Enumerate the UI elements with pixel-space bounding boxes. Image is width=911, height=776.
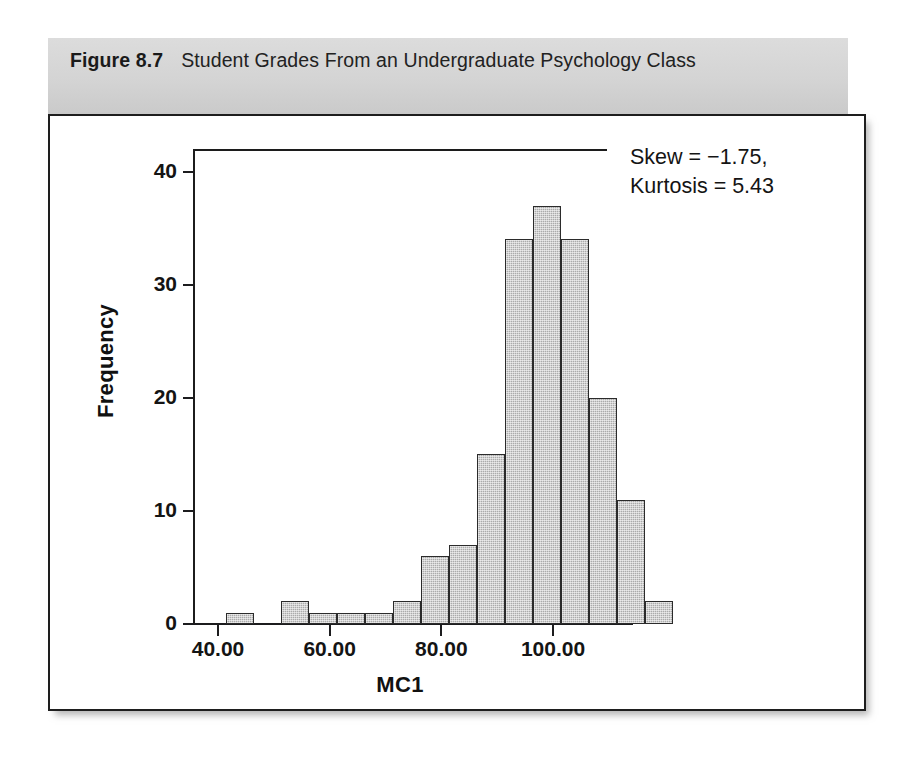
histogram-bar: [505, 239, 533, 624]
histogram-bar: [589, 398, 617, 624]
figure-card: 010203040 Frequency 40.0060.0080.00100.0…: [48, 114, 866, 711]
figure-number-label: Figure 8.7: [70, 46, 163, 75]
histogram-chart: 010203040 Frequency 40.0060.0080.00100.0…: [50, 116, 864, 709]
histogram-bar: [617, 500, 645, 624]
histogram-bar: [309, 613, 337, 624]
histogram-bar: [393, 601, 421, 624]
kurtosis-value: Kurtosis = 5.43: [630, 172, 774, 201]
histogram-bars: [50, 116, 864, 709]
figure-title-label: Student Grades From an Undergraduate Psy…: [181, 46, 696, 75]
stats-annotation: Skew = −1.75, Kurtosis = 5.43: [630, 143, 774, 201]
figure-caption-inner: Figure 8.7 Student Grades From an Underg…: [70, 46, 838, 75]
histogram-bar: [561, 239, 589, 624]
histogram-bar: [337, 613, 365, 624]
histogram-bar: [421, 556, 449, 624]
histogram-bar: [226, 613, 254, 624]
histogram-bar: [449, 545, 477, 624]
histogram-bar: [365, 613, 393, 624]
figure-root: Figure 8.7 Student Grades From an Underg…: [0, 0, 911, 776]
histogram-bar: [281, 601, 309, 624]
histogram-bar: [477, 454, 505, 624]
histogram-bar: [533, 206, 561, 624]
figure-caption-band: Figure 8.7 Student Grades From an Underg…: [48, 38, 848, 114]
skew-value: Skew = −1.75,: [630, 143, 774, 172]
histogram-bar: [645, 601, 673, 624]
